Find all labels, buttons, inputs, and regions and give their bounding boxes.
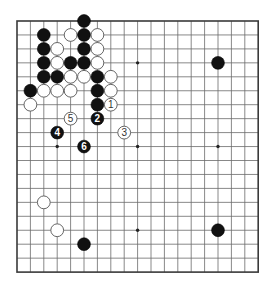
white-stone: [64, 29, 77, 42]
move-number: 2: [95, 113, 101, 124]
stone-disc: [104, 84, 117, 97]
stone-disc: [91, 84, 104, 97]
star-point: [216, 145, 219, 148]
stone-disc: [78, 15, 91, 28]
black-stone: [37, 70, 50, 83]
black-stone: [91, 70, 104, 83]
stone-disc: [78, 43, 91, 56]
stone-disc: [78, 70, 91, 83]
stone-disc: [91, 43, 104, 56]
black-stone: [64, 56, 77, 69]
stone-disc: [212, 56, 225, 69]
black-stone: [24, 84, 37, 97]
black-stone: [78, 15, 91, 28]
white-stone-move-3: 3: [118, 126, 131, 139]
stone-disc: [51, 43, 64, 56]
star-point: [136, 229, 139, 232]
stone-disc: [37, 43, 50, 56]
stone-disc: [91, 98, 104, 111]
stone-disc: [51, 70, 64, 83]
white-stone: [51, 56, 64, 69]
move-number: 5: [68, 113, 74, 124]
stone-disc: [24, 98, 37, 111]
stone-disc: [78, 238, 91, 251]
stone-disc: [64, 70, 77, 83]
stone-disc: [37, 84, 50, 97]
black-stone: [37, 29, 50, 42]
stone-disc: [64, 29, 77, 42]
stone-disc: [24, 84, 37, 97]
white-stone: [51, 224, 64, 237]
black-stone: [212, 224, 225, 237]
black-stone: [91, 98, 104, 111]
move-number: 1: [108, 99, 114, 110]
stone-disc: [78, 29, 91, 42]
stone-disc: [78, 56, 91, 69]
white-stone: [51, 43, 64, 56]
stone-disc: [51, 224, 64, 237]
white-stone: [64, 70, 77, 83]
stone-disc: [64, 84, 77, 97]
stone-disc: [37, 56, 50, 69]
black-stone-move-2: 2: [91, 112, 104, 125]
stone-disc: [51, 56, 64, 69]
black-stone: [37, 56, 50, 69]
stone-disc: [212, 224, 225, 237]
black-stone: [51, 70, 64, 83]
black-stone: [78, 238, 91, 251]
white-stone: [91, 43, 104, 56]
star-point: [136, 61, 139, 64]
stone-disc: [51, 84, 64, 97]
white-stone: [51, 84, 64, 97]
stone-disc: [91, 56, 104, 69]
black-stone: [78, 29, 91, 42]
white-stone: [78, 70, 91, 83]
black-stone: [78, 43, 91, 56]
white-stone: [37, 84, 50, 97]
white-stone: [104, 84, 117, 97]
black-stone: [37, 43, 50, 56]
go-board: 123456: [0, 0, 273, 293]
stone-disc: [104, 70, 117, 83]
white-stone: [37, 196, 50, 209]
white-stone-move-1: 1: [104, 98, 117, 111]
white-stone: [104, 70, 117, 83]
white-stone: [91, 56, 104, 69]
stone-disc: [37, 29, 50, 42]
white-stone: [64, 84, 77, 97]
move-number: 4: [54, 127, 60, 138]
white-stone-move-5: 5: [64, 112, 77, 125]
white-stone: [91, 29, 104, 42]
black-stone-move-6: 6: [78, 140, 91, 153]
stone-disc: [37, 196, 50, 209]
star-point: [56, 145, 59, 148]
white-stone: [24, 98, 37, 111]
black-stone: [91, 84, 104, 97]
stone-disc: [91, 70, 104, 83]
stone-disc: [37, 70, 50, 83]
star-point: [136, 145, 139, 148]
black-stone-move-4: 4: [51, 126, 64, 139]
stone-disc: [64, 56, 77, 69]
move-number: 6: [81, 141, 87, 152]
go-board-diagram: 123456: [0, 0, 273, 293]
stone-disc: [91, 29, 104, 42]
move-number: 3: [121, 127, 127, 138]
black-stone: [78, 56, 91, 69]
black-stone: [212, 56, 225, 69]
